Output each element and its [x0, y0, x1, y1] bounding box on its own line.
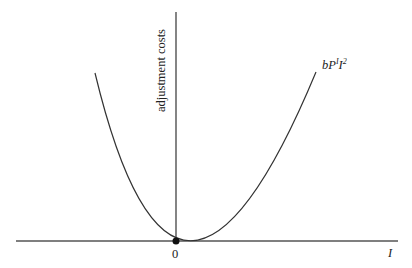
adjustment-cost-curve [95, 72, 316, 241]
curve-label: bPII2 [322, 57, 347, 73]
y-axis-label-text: adjustment costs [154, 29, 169, 112]
x-axis-label: I [388, 246, 392, 261]
curve-label-exp: 2 [343, 57, 347, 66]
curve-label-coef: bP [322, 58, 336, 72]
origin-tick-label: 0 [172, 247, 178, 262]
chart-canvas [0, 0, 412, 268]
origin-point [173, 238, 180, 245]
